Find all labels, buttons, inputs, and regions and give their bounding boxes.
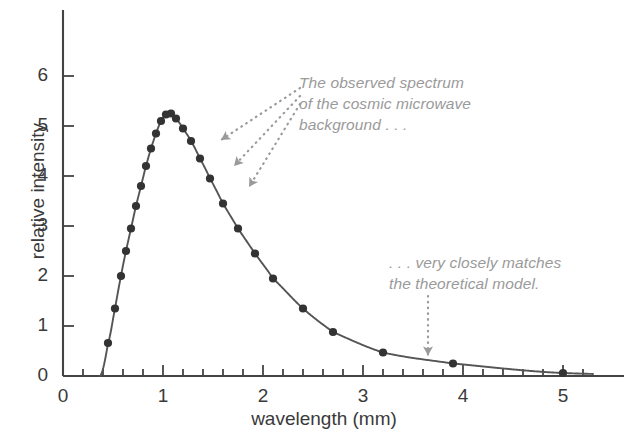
data-point-marker: [122, 247, 130, 255]
x-axis-ticks: [63, 365, 583, 376]
blackbody-spectrum-plot: [0, 0, 627, 442]
y-axis-ticks: [63, 76, 74, 376]
y-tick-label: 4: [14, 164, 48, 186]
data-point-marker: [104, 339, 112, 347]
data-point-marker: [187, 137, 195, 145]
data-point-marker: [147, 144, 155, 152]
annotation-theoretical-model: . . . very closely matches the theoretic…: [389, 252, 561, 294]
annotation-arrow-line: [221, 88, 300, 140]
x-tick-label: 0: [43, 385, 83, 407]
data-point-marker: [179, 124, 187, 132]
data-point-marker: [251, 249, 259, 257]
chart-container: wavelength (mm) relative intensity The o…: [0, 0, 627, 442]
spectrum-curve-path: [100, 113, 593, 376]
data-point-marker: [269, 274, 277, 282]
data-point-marker: [196, 154, 204, 162]
data-point-marker: [379, 348, 387, 356]
y-tick-label: 2: [14, 264, 48, 286]
x-axis-title: wavelength (mm): [204, 408, 444, 430]
x-tick-label: 1: [143, 385, 183, 407]
x-tick-label: 2: [243, 385, 283, 407]
data-point-marker: [117, 272, 125, 280]
y-tick-label: 3: [14, 214, 48, 236]
spectrum-curve: [100, 113, 593, 376]
data-point-marker: [157, 117, 165, 125]
data-point-marker: [132, 202, 140, 210]
data-point-marker: [172, 114, 180, 122]
data-point-marker: [234, 224, 242, 232]
data-point-marker: [127, 224, 135, 232]
annotation-arrowhead: [230, 156, 243, 169]
annotation-observed-spectrum: The observed spectrum of the cosmic micr…: [299, 72, 471, 135]
y-tick-label: 1: [14, 314, 48, 336]
x-tick-label: 3: [343, 385, 383, 407]
data-point-marker: [142, 162, 150, 170]
y-tick-label: 6: [14, 64, 48, 86]
data-point-marker: [111, 304, 119, 312]
data-point-marker: [299, 304, 307, 312]
x-tick-label: 5: [543, 385, 583, 407]
annotation-arrowhead: [218, 131, 231, 144]
x-tick-label: 4: [443, 385, 483, 407]
annotation-arrowhead: [245, 177, 258, 190]
data-point-marker: [137, 182, 145, 190]
annotation-arrow-line: [234, 96, 300, 166]
data-point-marker: [152, 129, 160, 137]
data-point-marker: [559, 369, 567, 377]
data-point-marker: [219, 199, 227, 207]
data-point-marker: [206, 174, 214, 182]
y-tick-label: 5: [14, 114, 48, 136]
axes: [63, 10, 624, 376]
data-point-markers: [104, 109, 567, 377]
data-point-marker: [329, 328, 337, 336]
data-point-marker: [449, 359, 457, 367]
y-tick-label: 0: [14, 364, 48, 386]
